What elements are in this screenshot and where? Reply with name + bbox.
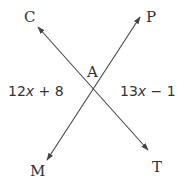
point-label-m: M (30, 162, 45, 180)
right-constant: − 1 (146, 83, 176, 99)
right-coefficient: 13 (120, 83, 138, 99)
left-coefficient: 12 (8, 83, 26, 99)
left-constant: + 8 (34, 83, 64, 99)
point-label-t: T (152, 158, 162, 176)
point-label-c: C (24, 8, 35, 26)
angle-expression-left: 12x + 8 (8, 83, 64, 99)
point-label-p: P (146, 8, 156, 26)
intersecting-lines-diagram: C P M T A 12x + 8 13x − 1 (0, 0, 177, 184)
angle-expression-right: 13x − 1 (120, 83, 176, 99)
intersection-label-a: A (86, 63, 98, 81)
